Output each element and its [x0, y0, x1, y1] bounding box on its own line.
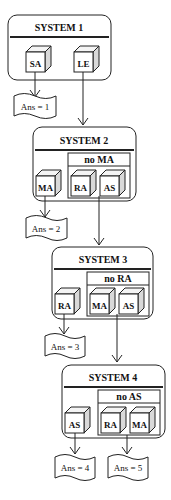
svg-text:Ans = 5: Ans = 5 — [114, 463, 143, 473]
cube-ma: MA — [36, 170, 61, 196]
system-1: SYSTEM 1 SA LE — [8, 15, 111, 80]
svg-text:SYSTEM 3: SYSTEM 3 — [79, 254, 128, 265]
svg-text:Ans = 4: Ans = 4 — [61, 463, 90, 473]
svg-text:MA: MA — [92, 301, 107, 311]
svg-text:Ans = 1: Ans = 1 — [21, 102, 50, 112]
svg-text:no AS: no AS — [116, 391, 142, 402]
svg-text:no RA: no RA — [104, 273, 132, 284]
system-3: SYSTEM 3 no RA RA MA AS — [52, 247, 153, 319]
svg-text:SA: SA — [30, 59, 42, 69]
cube-ra: RA — [101, 407, 126, 433]
cube-sa: SA — [26, 46, 51, 72]
svg-text:RA: RA — [104, 420, 117, 430]
svg-text:LE: LE — [77, 59, 89, 69]
system-2: SYSTEM 2 no MA MA RA AS — [33, 127, 136, 201]
answer-1: Ans = 1 — [14, 94, 56, 119]
svg-text:no MA: no MA — [84, 154, 115, 165]
svg-text:Ans = 3: Ans = 3 — [51, 342, 80, 352]
system-4: SYSTEM 4 no AS AS RA MA — [62, 365, 165, 438]
cube-ma: MA — [90, 288, 115, 314]
svg-text:RA: RA — [58, 301, 71, 311]
svg-text:AS: AS — [123, 301, 135, 311]
answer-3: Ans = 3 — [45, 334, 85, 359]
answer-4: Ans = 4 — [55, 455, 95, 481]
svg-text:RA: RA — [74, 183, 87, 193]
svg-text:SYSTEM 4: SYSTEM 4 — [89, 372, 138, 383]
svg-text:MA: MA — [132, 420, 147, 430]
svg-text:Ans = 2: Ans = 2 — [32, 224, 61, 234]
flow-diagram: SYSTEM 1 SA LE Ans = 1 SYSTEM 2 no MA MA… — [0, 0, 171, 500]
svg-text:AS: AS — [104, 183, 116, 193]
cube-as: AS — [119, 288, 144, 314]
cube-as: AS — [65, 407, 90, 433]
cube-ra: RA — [55, 288, 80, 314]
svg-text:MA: MA — [38, 183, 53, 193]
svg-text:SYSTEM 2: SYSTEM 2 — [60, 135, 109, 146]
svg-text:AS: AS — [69, 420, 81, 430]
cube-ma: MA — [130, 407, 155, 433]
cube-ra: RA — [71, 170, 96, 196]
cube-le: LE — [74, 46, 99, 72]
answer-5: Ans = 5 — [108, 455, 148, 481]
answer-2: Ans = 2 — [26, 216, 67, 241]
system-1-title: SYSTEM 1 — [35, 22, 84, 33]
cube-as: AS — [100, 170, 125, 196]
